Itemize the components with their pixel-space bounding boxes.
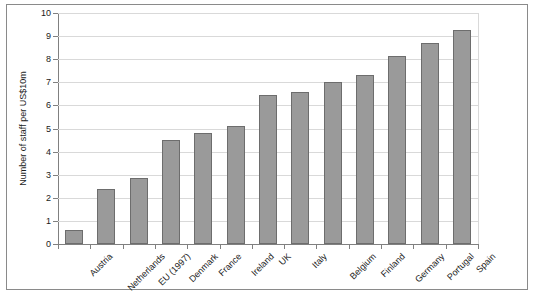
- y-axis-tick: [53, 152, 58, 153]
- y-axis-tick: [53, 59, 58, 60]
- bar: [356, 75, 374, 244]
- bar: [421, 43, 439, 244]
- gridline: [58, 82, 478, 83]
- y-axis-tick: [53, 221, 58, 222]
- bar: [65, 230, 83, 244]
- x-axis-tick-label: France: [218, 252, 244, 278]
- bar: [453, 30, 471, 244]
- y-axis-tick-label: 9: [46, 32, 51, 41]
- bar: [227, 126, 245, 244]
- y-axis-tick: [53, 82, 58, 83]
- plot-inner: 012345678910 AustriaNetherlandsEU (1997)…: [58, 13, 478, 244]
- x-axis-tick: [155, 244, 156, 249]
- y-axis-tick: [53, 13, 58, 14]
- x-axis-tick: [284, 244, 285, 249]
- y-axis-tick-label: 8: [46, 55, 51, 64]
- y-axis-tick-label: 7: [46, 78, 51, 87]
- bar: [97, 189, 115, 244]
- x-axis-tick-label: Austria: [88, 252, 114, 278]
- x-axis-tick: [381, 244, 382, 249]
- x-axis-tick: [90, 244, 91, 249]
- x-axis-tick: [349, 244, 350, 249]
- x-axis-tick: [252, 244, 253, 249]
- x-axis-tick: [413, 244, 414, 249]
- x-axis-tick-label: UK: [278, 252, 293, 267]
- x-axis-tick-label: Ireland: [250, 252, 276, 278]
- y-axis-tick: [53, 175, 58, 176]
- bar: [388, 56, 406, 244]
- x-axis-tick-label: Belgium: [348, 252, 377, 281]
- x-axis-tick-label: Portugal: [445, 252, 475, 282]
- y-axis-tick-label: 1: [46, 216, 51, 225]
- x-axis-tick-label: Spain: [475, 252, 498, 275]
- bar: [324, 82, 342, 244]
- bar: [162, 140, 180, 244]
- y-axis-tick-label: 5: [46, 124, 51, 133]
- x-axis-tick-label: Germany: [414, 252, 447, 285]
- x-axis-line: [58, 244, 479, 245]
- y-axis-tick: [53, 105, 58, 106]
- y-axis-tick-label: 3: [46, 170, 51, 179]
- x-axis-tick-label: Denmark: [188, 252, 220, 284]
- x-axis-tick-label: Netherlands: [127, 252, 168, 293]
- y-axis-title-label: Number of staff per US$10m: [19, 71, 28, 185]
- gridline: [58, 59, 478, 60]
- x-axis-tick: [316, 244, 317, 249]
- bar: [194, 133, 212, 244]
- x-axis-tick: [220, 244, 221, 249]
- x-axis-tick: [58, 244, 59, 249]
- bar: [291, 92, 309, 244]
- y-axis-tick: [53, 36, 58, 37]
- gridline: [58, 36, 478, 37]
- x-axis-tick-label: Italy: [311, 252, 329, 270]
- y-axis-tick-label: 2: [46, 193, 51, 202]
- plot-area: 012345678910 AustriaNetherlandsEU (1997)…: [58, 13, 478, 244]
- y-axis-tick-label: 0: [46, 240, 51, 249]
- x-axis-tick-label: Finland: [380, 252, 407, 279]
- x-axis-tick: [123, 244, 124, 249]
- y-axis-tick-label: 4: [46, 147, 51, 156]
- y-axis-tick: [53, 198, 58, 199]
- x-axis-tick: [446, 244, 447, 249]
- x-axis-tick: [187, 244, 188, 249]
- plot-right-border: [478, 13, 479, 245]
- bar: [259, 95, 277, 244]
- y-axis-title: Number of staff per US$10m: [17, 13, 29, 244]
- y-axis-tick-label: 6: [46, 101, 51, 110]
- bar: [130, 178, 148, 244]
- y-axis-tick-label: 10: [41, 9, 51, 18]
- x-axis-tick: [478, 244, 479, 249]
- chart-figure: Number of staff per US$10m 012345678910 …: [6, 4, 528, 290]
- gridline: [58, 13, 478, 14]
- y-axis-tick: [53, 129, 58, 130]
